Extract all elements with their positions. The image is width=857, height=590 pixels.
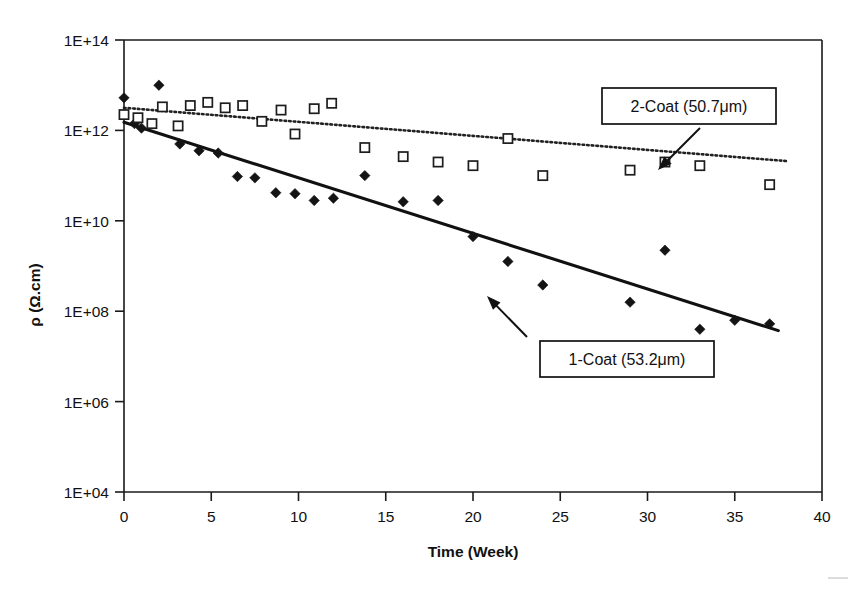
data-point-square	[257, 117, 266, 126]
data-point-square	[238, 101, 247, 110]
data-point-square	[290, 129, 299, 138]
x-tick-label: 20	[464, 508, 482, 525]
x-axis-title: Time (Week)	[428, 543, 519, 560]
y-tick-label: 1E+06	[64, 394, 109, 411]
data-point-square	[360, 143, 369, 152]
data-point-square	[503, 134, 512, 143]
y-tick-label: 1E+04	[64, 484, 110, 501]
data-point-square	[625, 166, 634, 175]
x-tick-label: 40	[813, 508, 831, 525]
data-point-square	[147, 119, 156, 128]
data-point-square	[695, 161, 704, 170]
y-tick-label: 1E+12	[64, 122, 109, 139]
x-tick-label: 35	[726, 508, 743, 525]
figure-container: 1E+041E+061E+081E+101E+121E+14 051015202…	[0, 0, 857, 590]
x-tick-label: 30	[639, 508, 657, 525]
y-tick-label: 1E+14	[64, 32, 110, 49]
data-point-square	[538, 171, 547, 180]
x-tick-label: 15	[377, 508, 394, 525]
x-tick-label: 0	[120, 508, 129, 525]
y-axis-title: ρ (Ω.cm)	[26, 263, 43, 326]
y-tick-label: 1E+08	[64, 303, 109, 320]
data-point-square	[133, 113, 142, 122]
data-point-square	[203, 98, 212, 107]
data-point-square	[119, 110, 128, 119]
data-point-square	[765, 180, 774, 189]
callout-label: 1-Coat (53.2μm)	[569, 351, 686, 368]
x-tick-label: 10	[290, 508, 308, 525]
data-point-square	[434, 157, 443, 166]
data-point-square	[399, 152, 408, 161]
data-point-square	[310, 104, 319, 113]
data-point-square	[221, 103, 230, 112]
x-tick-label: 25	[552, 508, 569, 525]
data-point-square	[327, 99, 336, 108]
data-point-square	[173, 121, 182, 130]
data-point-square	[158, 102, 167, 111]
resistivity-vs-time-chart: 1E+041E+061E+081E+101E+121E+14 051015202…	[0, 0, 857, 590]
data-point-square	[468, 161, 477, 170]
y-tick-label: 1E+10	[64, 213, 110, 230]
data-point-square	[276, 105, 285, 114]
callout-label: 2-Coat (50.7μm)	[631, 98, 748, 115]
x-tick-label: 5	[207, 508, 216, 525]
data-point-square	[186, 101, 195, 110]
